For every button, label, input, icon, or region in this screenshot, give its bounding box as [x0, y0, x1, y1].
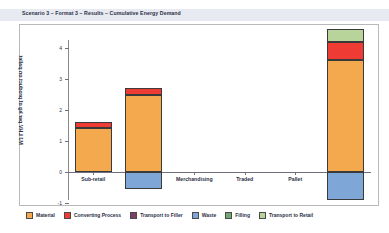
legend-item-transport-to-retail[interactable]: Transport to Retail [259, 212, 313, 219]
legend-label: Material [36, 212, 55, 218]
bar-group-total[interactable] [327, 0, 364, 210]
y-tick-label: 4 [48, 45, 62, 51]
legend-label: Filling [235, 212, 250, 218]
y-tick-mark [65, 141, 69, 142]
bar-group-sub-retail[interactable] [75, 0, 112, 210]
y-tick-label: 1 [48, 138, 62, 144]
legend-item-material[interactable]: Material [26, 212, 55, 219]
y-tick-mark [65, 48, 69, 49]
category-axis-line [68, 172, 371, 173]
bar-segment-converting-process[interactable] [327, 42, 364, 61]
bar-segment-waste[interactable] [327, 172, 364, 200]
y-tick-label: 0 [48, 169, 62, 175]
legend-label: Converting Process [74, 212, 121, 218]
bar-segment-material[interactable] [75, 128, 112, 172]
legend-swatch-icon [225, 212, 232, 219]
legend-item-waste[interactable]: Waste [192, 212, 217, 219]
legend-swatch-icon [259, 212, 266, 219]
bar-segment-material[interactable] [327, 60, 364, 172]
y-tick-mark [65, 79, 69, 80]
bar-segment-converting-process[interactable] [75, 122, 112, 128]
legend-label: Transport to Filler [140, 212, 183, 218]
y-tick-mark [65, 110, 69, 111]
legend-item-filling[interactable]: Filling [225, 212, 250, 219]
bar-segment-converting-process[interactable] [125, 88, 162, 95]
bar-segment-waste[interactable] [125, 172, 162, 189]
bar-group-merchandising[interactable] [176, 0, 213, 210]
bar-group-pallet[interactable] [277, 0, 314, 210]
bar-group-traded[interactable] [226, 0, 263, 210]
legend-swatch-icon [26, 212, 33, 219]
legend-swatch-icon [130, 212, 137, 219]
bar-group-retail[interactable] [125, 0, 162, 210]
y-axis-title: MJ LHV per kg of product on pallet [18, 0, 28, 30]
y-tick-mark [65, 172, 69, 173]
legend-label: Waste [202, 212, 217, 218]
legend-swatch-icon [64, 212, 71, 219]
chart-legend: MaterialConverting ProcessTransport to F… [26, 209, 322, 221]
legend-item-transport-to-filler[interactable]: Transport to Filler [130, 212, 183, 219]
legend-item-converting-process[interactable]: Converting Process [64, 212, 121, 219]
legend-swatch-icon [192, 212, 199, 219]
y-tick-label: -1 [48, 200, 62, 206]
y-tick-mark [65, 203, 69, 204]
bar-segment-transport-to-retail[interactable] [327, 29, 364, 41]
y-tick-label: 2 [48, 107, 62, 113]
y-axis-title-label: MJ LHV per kg of product on pallet [18, 30, 24, 170]
legend-label: Transport to Retail [269, 212, 313, 218]
y-tick-label: 3 [48, 76, 62, 82]
bar-segment-material[interactable] [125, 95, 162, 172]
